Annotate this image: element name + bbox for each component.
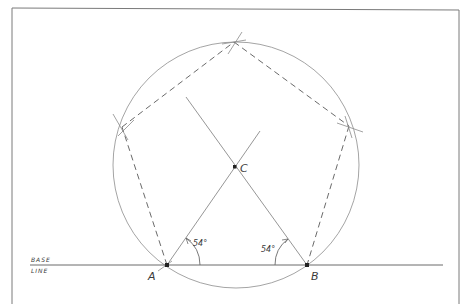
side-top-right <box>234 42 349 126</box>
point-a-label: A <box>147 270 156 283</box>
point-c-label: C <box>240 162 248 175</box>
side-left-top <box>122 42 234 127</box>
angle-arc-b <box>275 239 288 265</box>
tick-left-1 <box>113 114 128 140</box>
frame-border <box>12 8 459 304</box>
point-a-marker <box>165 263 169 267</box>
base-label-bottom: LINE <box>31 267 48 274</box>
construction-line-a <box>167 131 260 265</box>
angle-a-label: 54° <box>193 239 207 248</box>
side-right-b <box>307 126 349 265</box>
pentagon-sides <box>122 42 349 265</box>
diagram-canvas: BASE LINE A B C 54° 54° <box>0 0 462 304</box>
point-c-marker <box>233 165 237 169</box>
pentagon-construction-diagram: BASE LINE A B C 54° 54° <box>0 0 462 304</box>
side-a-left <box>122 127 167 265</box>
point-b-marker <box>305 263 309 267</box>
point-b-label: B <box>311 270 319 283</box>
angle-b-label: 54° <box>261 245 275 254</box>
tick-right-2 <box>345 116 352 138</box>
arrow-head-a <box>186 238 191 244</box>
base-label-top: BASE <box>31 256 51 263</box>
arc-tick-marks <box>113 32 363 271</box>
